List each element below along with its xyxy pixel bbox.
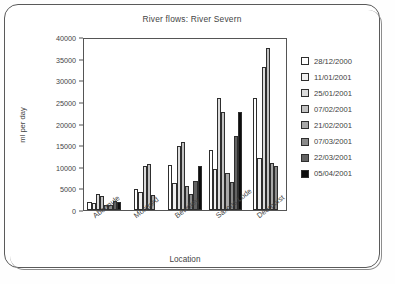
legend-swatch: [301, 105, 309, 113]
legend-label: 21/02/2001: [314, 121, 352, 130]
legend-label: 07/03/2001: [314, 137, 352, 146]
legend-label: 28/12/2000: [314, 57, 352, 66]
legend-item[interactable]: 07/02/2001: [301, 101, 393, 117]
bar-group: [246, 39, 286, 210]
legend-swatch: [301, 89, 309, 97]
y-axis-tick-label: 35000: [56, 55, 76, 64]
screenshot-page: River flows: River Severn ml per day 050…: [0, 0, 395, 284]
legend-swatch: [301, 73, 309, 81]
legend-swatch: [301, 170, 309, 178]
y-axis-tick-label: 30000: [56, 77, 76, 86]
x-axis: AbermuleMontfordBewdleySaxons LodeDeerhu…: [83, 213, 287, 259]
legend-item[interactable]: 28/12/2000: [301, 53, 393, 69]
bar-groups: [84, 39, 286, 210]
y-axis-tick-label: 40000: [56, 34, 76, 43]
legend-item[interactable]: 05/04/2001: [301, 166, 393, 182]
legend-label: 05/04/2001: [314, 169, 352, 178]
legend-swatch: [301, 138, 309, 146]
legend-swatch: [301, 57, 309, 65]
legend-label: 25/01/2001: [314, 89, 352, 98]
y-axis-tick-label: 10000: [56, 163, 76, 172]
chart-card: River flows: River Severn ml per day 050…: [4, 4, 380, 268]
y-axis-tick-label: 15000: [56, 142, 76, 151]
y-axis-tick-label: 0: [72, 207, 76, 216]
legend-item[interactable]: 07/03/2001: [301, 133, 393, 149]
legend-label: 11/01/2001: [314, 73, 351, 82]
chart-title: River flows: River Severn: [5, 14, 379, 24]
legend-item[interactable]: 25/01/2001: [301, 85, 393, 101]
legend-item[interactable]: 21/02/2001: [301, 117, 393, 133]
y-axis-tick-label: 5000: [60, 185, 76, 194]
y-axis-label: ml per day: [18, 70, 27, 180]
bar-group: [205, 39, 245, 210]
legend-label: 22/03/2001: [314, 153, 352, 162]
y-axis-tick-label: 25000: [56, 98, 76, 107]
bar-group: [124, 39, 164, 210]
x-axis-label: Location: [83, 255, 287, 264]
bar-group: [84, 39, 124, 210]
legend-swatch: [301, 154, 309, 162]
legend-item[interactable]: 22/03/2001: [301, 150, 393, 166]
legend-item[interactable]: 11/01/2001: [301, 69, 393, 85]
bar-group: [165, 39, 205, 210]
chart-legend: 28/12/200011/01/200125/01/200107/02/2001…: [301, 53, 393, 182]
legend-swatch: [301, 121, 309, 129]
y-axis-tick-label: 20000: [56, 120, 76, 129]
y-axis: ml per day 05000100001500020000250003000…: [5, 38, 83, 211]
plot-area: [83, 38, 287, 211]
legend-label: 07/02/2001: [314, 105, 352, 114]
